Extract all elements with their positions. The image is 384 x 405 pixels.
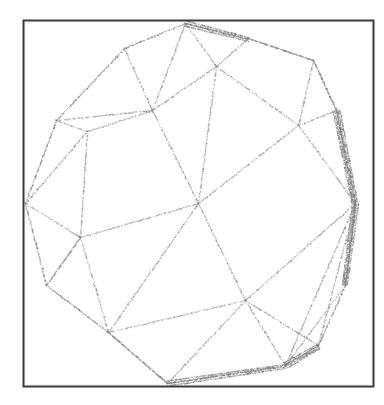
wireframe-sphere-canvas: [0, 0, 384, 405]
figure-root: [0, 0, 384, 405]
